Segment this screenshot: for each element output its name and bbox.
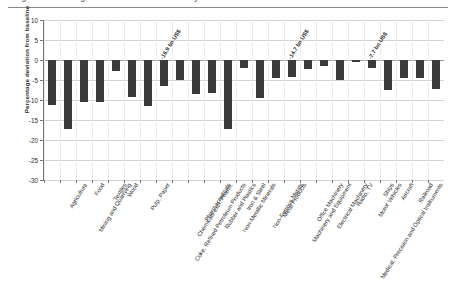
vertical-gridline bbox=[428, 20, 429, 180]
vertical-gridline bbox=[332, 20, 333, 180]
gridline--10 bbox=[44, 100, 444, 101]
vertical-gridline bbox=[124, 20, 125, 180]
y-tick-label: -25 bbox=[29, 157, 38, 164]
vertical-gridline bbox=[412, 20, 413, 180]
vertical-gridline bbox=[156, 20, 157, 180]
plot-area: 1050-5-10-15-20-25-30 -16.9 bn US$-14.7 … bbox=[44, 20, 444, 180]
gridline--20 bbox=[44, 140, 444, 141]
vertical-gridline bbox=[348, 20, 349, 180]
vertical-gridline bbox=[108, 20, 109, 180]
bar bbox=[320, 60, 328, 66]
vertical-gridline bbox=[268, 20, 269, 180]
vertical-gridline bbox=[252, 20, 253, 180]
y-tick-mark--25 bbox=[40, 160, 44, 161]
y-axis-title: Percentage deviation from baseline bbox=[23, 0, 30, 130]
x-axis-labels: AgricultureMining and QuarryingFoodTexti… bbox=[44, 182, 444, 294]
x-tick-label: Pulp, Paper bbox=[149, 182, 170, 211]
y-tick-mark-5 bbox=[40, 40, 44, 41]
bar bbox=[384, 60, 392, 90]
bar bbox=[240, 60, 248, 68]
bar bbox=[208, 60, 216, 93]
bar bbox=[48, 60, 56, 105]
gridline--25 bbox=[44, 160, 444, 161]
vertical-gridline bbox=[316, 20, 317, 180]
bar bbox=[432, 60, 440, 89]
y-tick-label: -30 bbox=[29, 177, 38, 184]
clipped-caption-strip: Figure: Percentage deviation from baseli… bbox=[0, 0, 456, 10]
gridline--30 bbox=[44, 180, 444, 181]
y-tick-label: -20 bbox=[29, 137, 38, 144]
bar bbox=[192, 60, 200, 94]
vertical-gridline bbox=[204, 20, 205, 180]
bar bbox=[416, 60, 424, 78]
vertical-gridline bbox=[76, 20, 77, 180]
bar bbox=[176, 60, 184, 80]
vertical-gridline bbox=[220, 20, 221, 180]
clipped-caption-text: Figure: Percentage deviation from baseli… bbox=[14, 0, 226, 2]
bar bbox=[224, 60, 232, 129]
bar bbox=[112, 60, 120, 71]
bar bbox=[304, 60, 312, 69]
vertical-gridline bbox=[60, 20, 61, 180]
chart-figure: Figure: Percentage deviation from baseli… bbox=[0, 0, 456, 296]
x-tick-label: Food bbox=[93, 182, 105, 197]
bar bbox=[256, 60, 264, 98]
y-tick-mark-10 bbox=[40, 20, 44, 21]
bar bbox=[288, 60, 296, 77]
bar bbox=[336, 60, 344, 80]
bar bbox=[272, 60, 280, 78]
bar bbox=[400, 60, 408, 78]
vertical-gridline bbox=[140, 20, 141, 180]
y-tick-label: -10 bbox=[29, 97, 38, 104]
vertical-gridline bbox=[44, 20, 45, 180]
vertical-gridline bbox=[188, 20, 189, 180]
vertical-gridline bbox=[92, 20, 93, 180]
y-tick-label: 0 bbox=[34, 57, 38, 64]
y-tick-label: -5 bbox=[32, 77, 38, 84]
bar bbox=[64, 60, 72, 129]
x-tick-label: Agriculture bbox=[68, 182, 88, 209]
header-divider bbox=[8, 7, 448, 8]
y-tick-mark--5 bbox=[40, 80, 44, 81]
y-tick-mark--15 bbox=[40, 120, 44, 121]
gridline--15 bbox=[44, 120, 444, 121]
y-tick-mark--20 bbox=[40, 140, 44, 141]
y-tick-label: 5 bbox=[34, 37, 38, 44]
y-tick-mark--10 bbox=[40, 100, 44, 101]
y-tick-label: -15 bbox=[29, 117, 38, 124]
bar bbox=[80, 60, 88, 102]
bar bbox=[352, 60, 360, 62]
bar bbox=[128, 60, 136, 97]
vertical-gridline bbox=[236, 20, 237, 180]
bar bbox=[96, 60, 104, 102]
vertical-gridline bbox=[396, 20, 397, 180]
gridline-10 bbox=[44, 20, 444, 21]
vertical-gridline bbox=[284, 20, 285, 180]
vertical-gridline bbox=[364, 20, 365, 180]
bar bbox=[160, 60, 168, 86]
y-tick-mark-0 bbox=[40, 60, 44, 61]
bar bbox=[368, 60, 376, 68]
y-tick-label: 10 bbox=[31, 17, 38, 24]
bar bbox=[144, 60, 152, 106]
